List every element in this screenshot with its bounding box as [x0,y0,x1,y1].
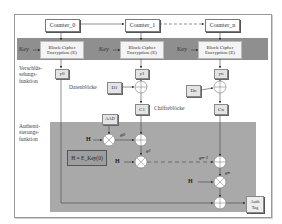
counter-0-box: Counter_0 [45,19,80,32]
block-cipher-n: Block Cipher Encryption (E) [198,41,242,59]
counter-1-box: Counter_1 [125,19,160,32]
auth-tag-line2: Tag [247,205,263,210]
auth-function-label: Authenti- sierungs- funktion [19,123,40,142]
d1-label: D1 [111,85,117,91]
gn-minus-1-label: gn-1 [199,155,208,160]
auth-tag-box: Auth Tag [246,196,264,213]
cn-label: Cn [218,107,224,113]
yn-label: yn [219,71,224,77]
g0-label: g0 [120,132,125,137]
y0-label: y0 [60,71,65,77]
block-cipher-1: Block Cipher Encryption (E) [120,41,164,59]
d1-box: D1 [107,82,122,94]
y0-box: y0 [55,69,69,79]
aad-label: AAD [105,117,115,122]
cipher-blocks-label: Chiffreblöcke [154,105,184,111]
g1-label: g1 [146,148,151,153]
label-line: funktion [19,136,40,142]
dn-box: Dn [186,85,201,97]
label-line: funktion [19,78,42,84]
aad-box: AAD [102,114,118,125]
cipher-line2: Encryption (E) [47,50,77,56]
data-blocks-label: Datenblöcke [69,84,97,90]
h-label-3: H [188,178,193,184]
label-line: sierungs- [19,129,40,135]
key-label-0: Key [19,46,29,52]
counter-n-box: Counter_n [205,19,240,32]
cn-box: Cn [214,104,228,115]
h-label-1: H [86,136,91,142]
counter-n-label: Counter_n [210,22,235,29]
counter-1-label: Counter_1 [130,22,155,29]
h-label-2: H [115,158,120,164]
h-definition-box: H = E_Key(0) [67,150,107,166]
h-definition: H = E_Key(0) [71,155,103,161]
c1-box: C1 [135,104,149,115]
encryption-function-label: Verschlüs- selungs- funktion [19,65,42,84]
cipher-line2: Encryption (E) [205,50,235,56]
c1-label: C1 [139,107,145,113]
cipher-line2: Encryption (E) [127,50,157,56]
dn-label: Dn [190,88,196,94]
counter-0-label: Counter_0 [50,22,75,29]
key-label-1: Key [99,46,109,52]
yn-box: yn [214,69,228,79]
y1-box: y1 [135,69,149,79]
key-label-n: Key [177,46,187,52]
y1-label: y1 [140,71,145,77]
gn-label: gn [225,170,230,175]
block-cipher-0: Block Cipher Encryption (E) [40,41,84,59]
